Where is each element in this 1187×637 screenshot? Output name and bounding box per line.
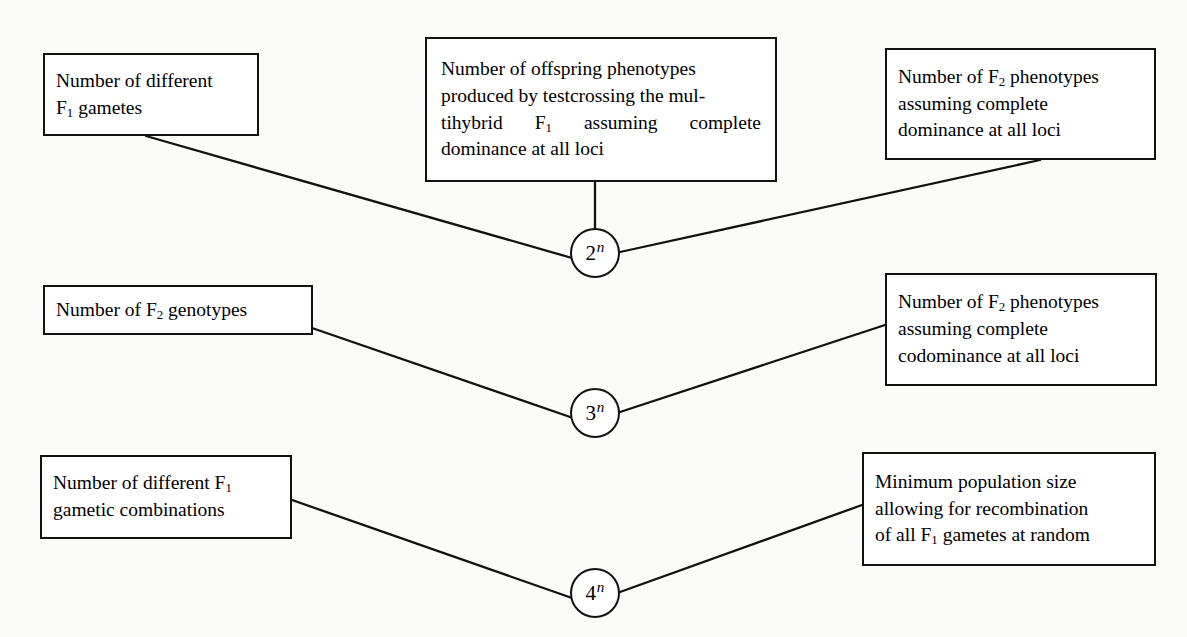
box-f2-dominance-line3: dominance at all loci xyxy=(898,117,1143,144)
box-testcross-line3: tihybrid F1 assuming complete xyxy=(441,110,761,137)
f-subscript: 1 xyxy=(225,481,231,495)
box-f1-gametic-combinations: Number of different F1 gametic combinati… xyxy=(40,455,292,539)
box-f2-phenotypes-dominance: Number of F2 phenotypes assuming complet… xyxy=(885,48,1156,160)
formula-base: 4 xyxy=(586,581,597,605)
number-of-f2: Number of F xyxy=(898,291,999,312)
phenotypes-word: phenotypes xyxy=(1005,66,1099,87)
assuming-word: assuming xyxy=(584,110,658,137)
page-header-bleed: · · · xyxy=(0,0,1187,6)
box-testcross-line2: produced by testcrossing the mul- xyxy=(441,83,761,110)
box-f2-phenotypes-codominance: Number of F2 phenotypes assuming complet… xyxy=(885,273,1157,386)
box-f2-dominance-line2: assuming complete xyxy=(898,91,1143,118)
gametes-word: gametes xyxy=(73,97,142,118)
complete-word: complete xyxy=(690,110,761,137)
formula-2n-text: 2n xyxy=(586,241,605,266)
formula-base: 2 xyxy=(586,241,597,265)
diagram-canvas: · · · Number of different F1 gametes Num… xyxy=(0,0,1187,637)
edge-gametic-combos-to-4n xyxy=(292,500,572,598)
genotypes-word: genotypes xyxy=(163,299,247,320)
box-f2-genotypes-line1: Number of F2 genotypes xyxy=(56,297,300,324)
box-testcross-offspring: Number of offspring phenotypes produced … xyxy=(425,37,777,182)
formula-exponent: n xyxy=(597,239,605,255)
f1-symbol-group: F1 xyxy=(535,110,552,137)
box-f2-codominance-line2: assuming complete xyxy=(898,316,1144,343)
formula-circle-3n: 3n xyxy=(570,388,620,438)
formula-exponent: n xyxy=(597,399,605,415)
box-gametic-combos-line1: Number of different F1 xyxy=(53,470,279,497)
phenotypes-word: phenotypes xyxy=(1005,291,1099,312)
box-f2-dominance-line1: Number of F2 phenotypes xyxy=(898,64,1143,91)
box-min-population-line3: of all F1 gametes at random xyxy=(875,522,1143,549)
formula-4n-text: 4n xyxy=(586,581,605,606)
box-min-population-line1: Minimum population size xyxy=(875,469,1143,496)
box-f2-genotypes: Number of F2 genotypes xyxy=(43,285,313,335)
tihybrid-word: tihybrid xyxy=(441,110,503,137)
formula-base: 3 xyxy=(586,401,597,425)
box-testcross-line4: dominance at all loci xyxy=(441,136,761,163)
box-f1-gametes-line1: Number of different xyxy=(56,68,246,95)
box-minimum-population: Minimum population size allowing for rec… xyxy=(862,452,1156,566)
number-of-f2: Number of F xyxy=(56,299,157,320)
box-testcross-line1: Number of offspring phenotypes xyxy=(441,56,761,83)
of-all-f1: of all F xyxy=(875,524,931,545)
f-symbol: F xyxy=(56,97,67,118)
formula-3n-text: 3n xyxy=(586,401,605,426)
box-f1-gametes: Number of different F1 gametes xyxy=(43,53,259,136)
formula-exponent: n xyxy=(597,579,605,595)
edge-3n-to-codominance xyxy=(620,325,885,412)
box-min-population-line2: allowing for recombination xyxy=(875,496,1143,523)
number-of-f2: Number of F xyxy=(898,66,999,87)
box-f2-codominance-line1: Number of F2 phenotypes xyxy=(898,289,1144,316)
number-of-different-f1: Number of different F xyxy=(53,472,225,493)
formula-circle-2n: 2n xyxy=(570,228,620,278)
box-f2-codominance-line3: codominance at all loci xyxy=(898,343,1144,370)
box-gametic-combos-line2: gametic combinations xyxy=(53,497,279,524)
edge-4n-to-min-population xyxy=(620,505,862,592)
box-f1-gametes-line2: F1 gametes xyxy=(56,95,246,122)
f-symbol: F xyxy=(535,112,546,133)
gametes-at-random: gametes at random xyxy=(938,524,1090,545)
formula-circle-4n: 4n xyxy=(570,568,620,618)
edge-f2-genotypes-to-3n xyxy=(312,328,573,418)
f-subscript: 1 xyxy=(546,120,552,134)
